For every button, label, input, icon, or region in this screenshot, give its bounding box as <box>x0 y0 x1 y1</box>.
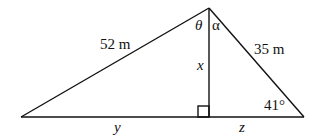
right-base-segment-label: z <box>239 120 245 135</box>
left-side-line <box>21 8 209 117</box>
right-side-label: 35 m <box>254 42 284 57</box>
right-angle-marker <box>198 106 209 117</box>
left-side-label: 52 m <box>100 37 130 52</box>
left-base-segment-label: y <box>114 120 121 135</box>
altitude-label: x <box>197 58 204 73</box>
alpha-angle-label: α <box>212 18 220 33</box>
theta-angle-label: θ <box>195 18 202 33</box>
base-angle-label: 41° <box>264 98 285 113</box>
right-side-line <box>209 8 304 117</box>
triangle-diagram <box>0 0 314 139</box>
